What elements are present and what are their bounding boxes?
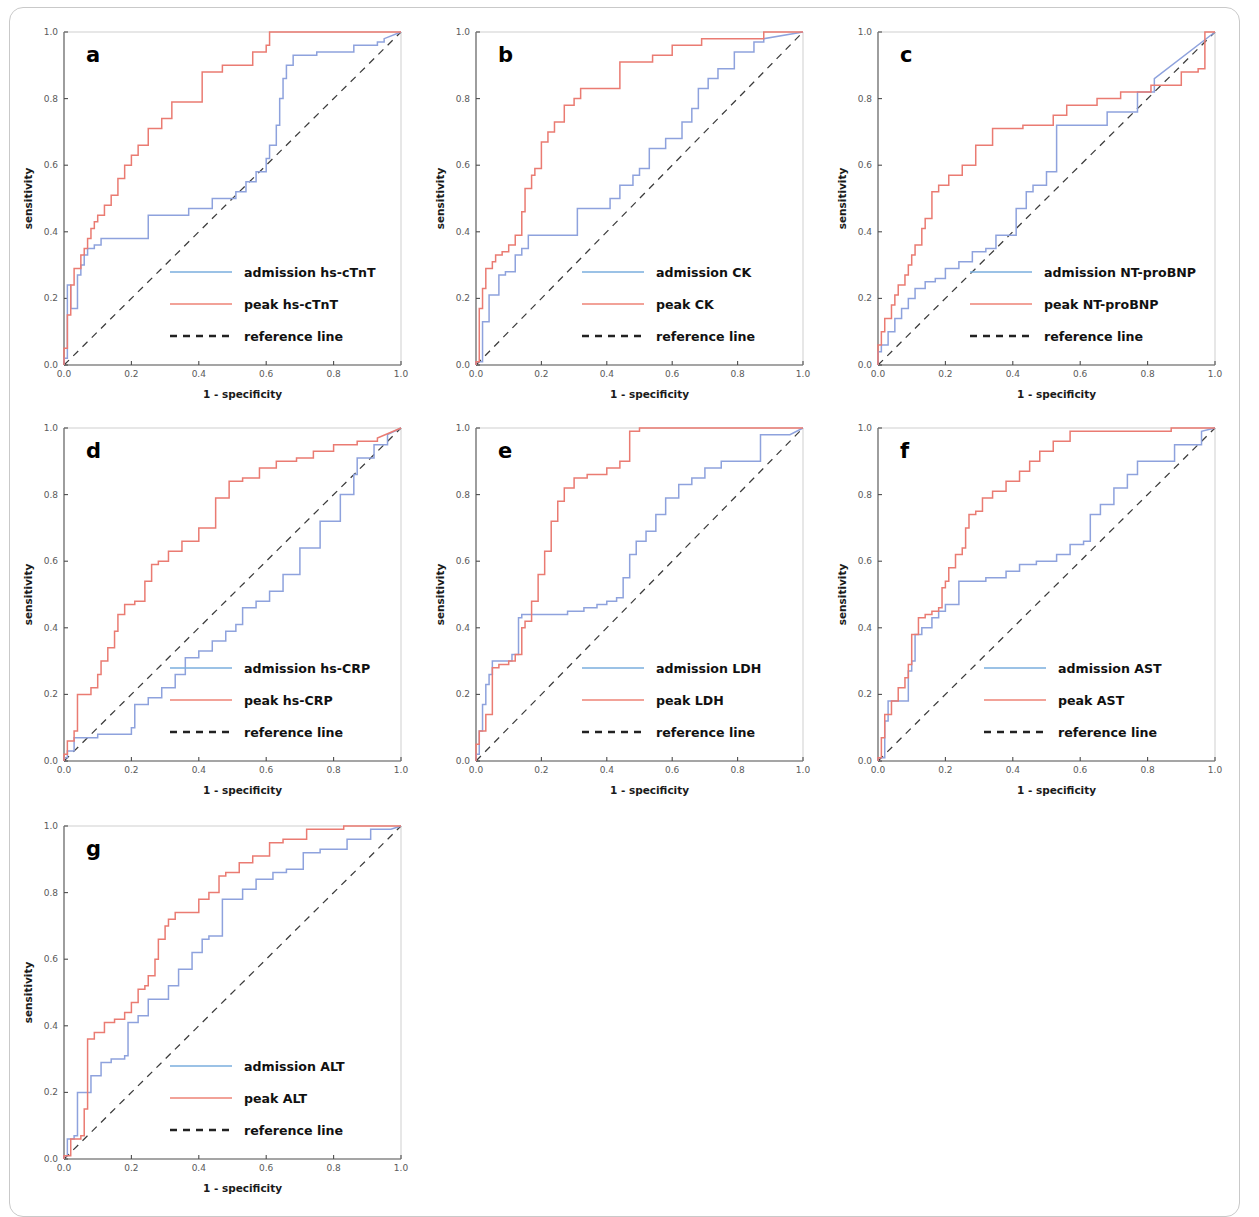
x-tick-label: 0.2 [938, 369, 952, 379]
y-tick-label: 0.0 [858, 756, 873, 766]
x-tick-label: 0.2 [534, 765, 548, 775]
x-axis-title: 1 - specificity [203, 1182, 282, 1194]
legend-d: admission hs-CRPpeak hs-CRPreference lin… [170, 661, 370, 740]
legend-label: admission ALT [244, 1059, 345, 1074]
legend-c: admission NT-proBNPpeak NT-proBNPreferen… [970, 265, 1196, 344]
roc-panel-d: 0.00.20.40.60.81.00.00.20.40.60.81.01 - … [18, 408, 428, 800]
x-tick-label: 0.2 [124, 765, 138, 775]
y-tick-label: 0.8 [44, 490, 59, 500]
x-tick-label: 0.0 [469, 369, 484, 379]
y-axis-title: sensitivity [22, 962, 34, 1024]
reference-line [64, 826, 401, 1159]
y-tick-label: 0.0 [858, 360, 873, 370]
x-tick-label: 0.6 [1073, 369, 1088, 379]
x-tick-label: 1.0 [1208, 369, 1223, 379]
y-tick-label: 0.4 [456, 623, 471, 633]
roc-panel-f: 0.00.20.40.60.81.00.00.20.40.60.81.01 - … [832, 408, 1242, 800]
y-tick-label: 0.6 [44, 954, 59, 964]
axes-f: 0.00.20.40.60.81.00.00.20.40.60.81.0 [858, 423, 1223, 775]
x-tick-label: 0.6 [665, 765, 680, 775]
x-tick-label: 0.2 [124, 1163, 138, 1173]
legend-label: reference line [656, 725, 755, 740]
roc-chart-f: 0.00.20.40.60.81.00.00.20.40.60.81.01 - … [832, 408, 1242, 800]
x-tick-label: 0.8 [730, 765, 745, 775]
y-tick-label: 0.2 [456, 293, 470, 303]
x-axis-title: 1 - specificity [1017, 784, 1096, 796]
axes-c: 0.00.20.40.60.81.00.00.20.40.60.81.0 [858, 27, 1223, 379]
y-axis-title: sensitivity [22, 168, 34, 230]
x-tick-label: 0.4 [600, 369, 615, 379]
legend-label: peak LDH [656, 693, 724, 708]
y-axis-title: sensitivity [836, 168, 848, 230]
x-tick-label: 0.8 [326, 1163, 341, 1173]
y-tick-label: 1.0 [44, 423, 59, 433]
y-tick-label: 0.4 [858, 227, 873, 237]
panel-letter-f: f [900, 439, 910, 463]
x-axis-title: 1 - specificity [203, 784, 282, 796]
roc-chart-d: 0.00.20.40.60.81.00.00.20.40.60.81.01 - … [18, 408, 428, 800]
x-axis-title: 1 - specificity [610, 784, 689, 796]
y-tick-label: 0.2 [44, 1087, 58, 1097]
legend-f: admission ASTpeak ASTreference line [984, 661, 1162, 740]
roc-panel-a: 0.00.20.40.60.81.00.00.20.40.60.81.01 - … [18, 12, 428, 404]
x-axis-title: 1 - specificity [203, 388, 282, 400]
legend-label: admission hs-CRP [244, 661, 370, 676]
x-tick-label: 0.6 [259, 1163, 274, 1173]
panel-letter-b: b [498, 43, 513, 67]
reference-line [878, 32, 1215, 365]
y-tick-label: 0.0 [44, 1154, 59, 1164]
x-tick-label: 1.0 [796, 765, 811, 775]
legend-label: admission LDH [656, 661, 761, 676]
axes-b: 0.00.20.40.60.81.00.00.20.40.60.81.0 [456, 27, 811, 379]
x-tick-label: 0.0 [57, 765, 72, 775]
roc-chart-g: 0.00.20.40.60.81.00.00.20.40.60.81.01 - … [18, 806, 428, 1198]
y-axis-title: sensitivity [836, 564, 848, 626]
y-tick-label: 1.0 [858, 423, 873, 433]
y-tick-label: 0.0 [456, 756, 471, 766]
legend-label: admission NT-proBNP [1044, 265, 1196, 280]
panel-letter-e: e [498, 439, 512, 463]
y-tick-label: 0.6 [858, 160, 873, 170]
y-tick-label: 0.4 [44, 1021, 59, 1031]
x-tick-label: 0.4 [1006, 369, 1021, 379]
x-tick-label: 0.6 [1073, 765, 1088, 775]
x-tick-label: 0.4 [192, 765, 207, 775]
y-tick-label: 1.0 [456, 27, 471, 37]
x-tick-label: 0.0 [57, 1163, 72, 1173]
x-tick-label: 0.8 [1140, 369, 1155, 379]
legend-e: admission LDHpeak LDHreference line [582, 661, 761, 740]
roc-chart-b: 0.00.20.40.60.81.00.00.20.40.60.81.01 - … [430, 12, 830, 404]
x-tick-label: 1.0 [796, 369, 811, 379]
x-axis-title: 1 - specificity [610, 388, 689, 400]
legend-label: peak hs-CRP [244, 693, 333, 708]
roc-panel-b: 0.00.20.40.60.81.00.00.20.40.60.81.01 - … [430, 12, 830, 404]
legend-label: reference line [656, 329, 755, 344]
y-tick-label: 0.2 [44, 293, 58, 303]
roc-panel-e: 0.00.20.40.60.81.00.00.20.40.60.81.01 - … [430, 408, 830, 800]
y-tick-label: 0.0 [44, 756, 59, 766]
y-tick-label: 0.0 [44, 360, 59, 370]
x-tick-label: 1.0 [394, 1163, 409, 1173]
y-tick-label: 0.6 [456, 160, 471, 170]
panel-letter-d: d [86, 439, 101, 463]
y-axis-title: sensitivity [434, 564, 446, 626]
x-tick-label: 0.2 [124, 369, 138, 379]
legend-label: reference line [1058, 725, 1157, 740]
y-tick-label: 0.6 [456, 556, 471, 566]
y-axis-title: sensitivity [434, 168, 446, 230]
roc-chart-c: 0.00.20.40.60.81.00.00.20.40.60.81.01 - … [832, 12, 1242, 404]
axes-e: 0.00.20.40.60.81.00.00.20.40.60.81.0 [456, 423, 811, 775]
y-tick-label: 1.0 [858, 27, 873, 37]
reference-line [64, 428, 401, 761]
legend-label: admission AST [1058, 661, 1162, 676]
x-tick-label: 0.4 [1006, 765, 1021, 775]
y-tick-label: 0.4 [858, 623, 873, 633]
y-tick-label: 0.0 [456, 360, 471, 370]
y-tick-label: 0.8 [456, 94, 471, 104]
legend-a: admission hs-cTnTpeak hs-cTnTreference l… [170, 265, 376, 344]
panel-letter-a: a [86, 43, 100, 67]
legend-label: peak AST [1058, 693, 1125, 708]
legend-b: admission CKpeak CKreference line [582, 265, 755, 344]
y-axis-title: sensitivity [22, 564, 34, 626]
y-tick-label: 0.6 [858, 556, 873, 566]
